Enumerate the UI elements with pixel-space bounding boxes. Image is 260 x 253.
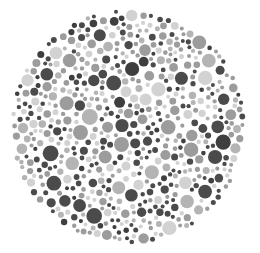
plate-dot <box>203 167 210 174</box>
plate-dot <box>175 184 179 188</box>
plate-dot <box>68 29 74 35</box>
plate-dot <box>225 73 229 77</box>
plate-dot <box>51 37 57 43</box>
plate-dot <box>111 174 115 178</box>
plate-dot <box>93 58 97 62</box>
plate-dot <box>187 104 191 108</box>
plate-dot <box>168 172 172 176</box>
plate-dot <box>143 137 152 146</box>
plate-dot <box>203 139 208 144</box>
plate-dot <box>184 143 198 157</box>
plate-dot <box>148 198 152 202</box>
plate-dot <box>133 180 143 190</box>
plate-dot <box>228 179 232 183</box>
plate-dot <box>75 100 85 110</box>
plate-dot <box>149 34 156 41</box>
plate-dot <box>85 61 90 66</box>
plate-dot <box>218 94 229 105</box>
plate-dot <box>104 209 112 217</box>
plate-dot <box>21 109 27 115</box>
plate-dot <box>180 211 184 215</box>
plate-dot <box>67 89 72 94</box>
plate-dot <box>159 41 164 46</box>
plate-dot <box>73 152 77 156</box>
plate-dot <box>120 222 124 226</box>
plate-dot <box>171 204 178 211</box>
plate-dot <box>81 187 86 192</box>
plate-dot <box>43 190 48 195</box>
plate-dot <box>165 200 169 204</box>
plate-dot <box>140 108 145 113</box>
plate-dot <box>156 48 162 54</box>
plate-dot <box>198 50 202 54</box>
plate-dot <box>193 69 197 73</box>
plate-dot <box>71 146 76 151</box>
plate-dot <box>41 68 54 81</box>
plate-dot <box>158 182 162 186</box>
plate-dot <box>177 170 181 174</box>
plate-dot <box>132 234 137 239</box>
plate-dot <box>110 66 114 70</box>
plate-dot <box>64 140 70 146</box>
plate-dot <box>187 31 194 38</box>
plate-dot <box>155 158 162 165</box>
plate-dot <box>104 193 108 197</box>
plate-dot <box>219 115 223 119</box>
plate-dot <box>116 207 120 211</box>
plate-dot <box>166 95 170 99</box>
plate-dot <box>118 237 122 241</box>
plate-dot <box>216 194 221 199</box>
plate-dot <box>141 147 145 151</box>
plate-dot <box>201 151 206 156</box>
plate-dot <box>60 154 64 158</box>
plate-dot <box>229 163 233 167</box>
plate-dot <box>49 92 57 100</box>
plate-dot <box>99 151 112 164</box>
plate-dot <box>113 160 118 165</box>
plate-dot <box>150 183 155 188</box>
plate-dot <box>161 186 169 194</box>
plate-dot <box>88 75 99 86</box>
plate-dot <box>151 42 157 48</box>
plate-dot <box>171 154 178 161</box>
plate-dot <box>92 198 96 202</box>
plate-dot <box>138 233 148 243</box>
plate-dot <box>179 54 184 59</box>
plate-dot <box>107 203 111 207</box>
plate-dot <box>103 42 113 52</box>
plate-dot <box>13 133 20 140</box>
plate-dot <box>123 176 129 182</box>
plate-dot <box>117 168 122 173</box>
plate-dot <box>73 125 88 140</box>
plate-dot <box>178 223 182 227</box>
plate-dot <box>61 112 65 116</box>
plate-dot <box>217 54 221 58</box>
plate-dot <box>56 142 60 146</box>
plate-dot <box>173 174 178 179</box>
plate-dot <box>145 179 149 183</box>
plate-dot <box>110 17 119 26</box>
plate-dot <box>72 49 76 53</box>
plate-dot <box>160 22 167 29</box>
plate-dot <box>135 53 139 57</box>
plate-dot <box>109 111 114 116</box>
plate-dot <box>117 230 121 234</box>
plate-dot <box>74 80 79 85</box>
plate-dot <box>59 137 63 141</box>
plate-dot <box>22 74 34 86</box>
plate-dot <box>121 60 126 65</box>
plate-dot <box>80 93 84 97</box>
plate-dot <box>199 199 203 203</box>
plate-dot <box>60 87 65 92</box>
plate-dot <box>199 124 208 133</box>
plate-dot <box>193 108 198 113</box>
plate-dot <box>173 192 178 197</box>
plate-dot <box>43 110 51 118</box>
plate-dot <box>18 84 22 88</box>
plate-dot <box>27 168 33 174</box>
plate-dot <box>141 218 146 223</box>
plate-dot <box>228 168 232 172</box>
plate-dot <box>218 80 222 84</box>
plate-dot <box>60 96 74 110</box>
plate-dot <box>63 47 67 51</box>
